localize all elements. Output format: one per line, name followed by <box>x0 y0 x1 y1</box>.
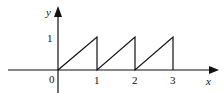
x-tick-label-2: 2 <box>132 74 138 86</box>
origin-label: 0 <box>49 73 55 85</box>
x-tick-label-3: 3 <box>170 74 176 86</box>
y-axis-arrow-icon <box>54 6 62 17</box>
y-tick-label-1: 1 <box>47 32 53 44</box>
x-axis-label: x <box>205 75 211 87</box>
x-axis-arrow-icon <box>209 66 219 74</box>
sawtooth-curve <box>58 37 173 70</box>
x-tick-label-1: 1 <box>94 74 100 86</box>
y-axis-label: y <box>45 6 51 18</box>
sawtooth-diagram: y 1 0 1 2 3 x <box>0 0 224 93</box>
